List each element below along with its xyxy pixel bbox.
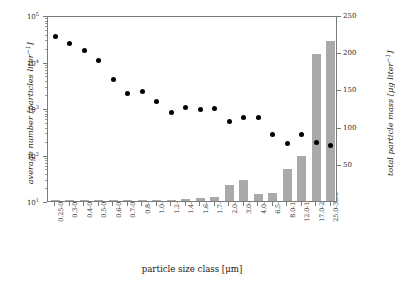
data-point	[299, 132, 304, 137]
bar	[138, 200, 147, 201]
x-tick	[127, 202, 128, 206]
bar	[225, 185, 234, 201]
y-tick-label-left: 103	[27, 104, 39, 114]
data-point	[241, 115, 246, 120]
y-axis-right-title-tail: ]	[385, 51, 395, 54]
data-point	[82, 48, 87, 53]
x-tick	[199, 202, 200, 206]
x-tick	[170, 202, 171, 206]
x-tick	[315, 202, 316, 206]
x-axis-title: particle size class [μm]	[47, 264, 337, 274]
y-axis-left-title-text: average number [particles liter	[25, 54, 35, 184]
data-point	[328, 143, 333, 148]
bar	[109, 200, 118, 201]
data-point	[212, 106, 217, 111]
data-point	[125, 91, 130, 96]
plot-area	[47, 16, 337, 202]
bar	[65, 200, 74, 201]
data-point	[53, 34, 58, 39]
x-tick	[185, 202, 186, 206]
bar	[196, 198, 205, 201]
data-point	[285, 141, 290, 146]
data-point	[96, 58, 101, 63]
data-point	[198, 107, 203, 112]
y-tick-label-left: 101	[27, 197, 39, 207]
x-tick	[112, 202, 113, 206]
y-tick-label-right: 50	[343, 161, 352, 169]
x-tick	[214, 202, 215, 206]
y-tick-left	[43, 202, 47, 203]
y-tick-right	[337, 165, 341, 166]
bar	[210, 197, 219, 201]
y-axis-left-title-exponent: −1	[25, 46, 31, 55]
bar	[94, 200, 103, 201]
data-point	[111, 77, 116, 82]
data-point	[140, 89, 145, 94]
x-tick	[228, 202, 229, 206]
bar	[268, 193, 277, 201]
bar	[283, 169, 292, 201]
bar	[152, 200, 161, 201]
data-point	[67, 41, 72, 46]
bar	[80, 200, 89, 201]
x-tick	[243, 202, 244, 206]
bar	[123, 200, 132, 201]
y-tick-label-right: 250	[343, 12, 356, 20]
bar	[181, 199, 190, 201]
bar	[167, 200, 176, 201]
bar	[312, 54, 321, 201]
x-tick	[301, 202, 302, 206]
data-point	[314, 140, 319, 145]
bar	[326, 41, 335, 201]
y-axis-right-title: total particle mass [μg liter−1]	[385, 23, 395, 203]
y-tick-label-left: 105	[27, 11, 39, 21]
x-tick	[69, 202, 70, 206]
data-point	[270, 132, 275, 137]
y-axis-right-title-exponent: −1	[385, 54, 391, 63]
bar	[239, 180, 248, 201]
y-axis-left-title-tail: ]	[25, 42, 35, 45]
x-tick	[257, 202, 258, 206]
data-point	[227, 119, 232, 124]
x-tick	[156, 202, 157, 206]
y-tick-right	[337, 90, 341, 91]
bar	[297, 156, 306, 201]
bar	[51, 200, 60, 201]
y-tick-right	[337, 53, 341, 54]
y-axis-right-title-text: total particle mass [μg liter	[385, 63, 395, 177]
y-tick-label-right: 200	[343, 49, 356, 57]
data-point	[169, 110, 174, 115]
x-tick	[272, 202, 273, 206]
data-point	[183, 105, 188, 110]
y-tick-right	[337, 16, 341, 17]
y-tick-label-right: 100	[343, 124, 356, 132]
y-tick-label-left: 102	[27, 151, 39, 161]
y-tick-label-left: 104	[27, 58, 39, 68]
x-tick	[141, 202, 142, 206]
y-tick-right	[337, 128, 341, 129]
bar	[254, 194, 263, 201]
x-tick	[286, 202, 287, 206]
y-tick-label-right: 150	[343, 86, 356, 94]
data-point	[256, 115, 261, 120]
x-tick	[83, 202, 84, 206]
x-tick	[330, 202, 331, 206]
x-tick	[54, 202, 55, 206]
data-point	[154, 99, 159, 104]
x-tick	[98, 202, 99, 206]
